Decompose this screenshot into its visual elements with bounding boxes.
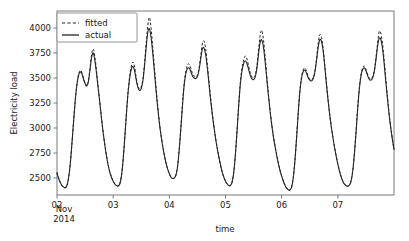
x-axis-sublabel-year: 2014: [53, 214, 75, 224]
x-axis-tick-label: 07: [332, 200, 343, 210]
y-axis-tick-label: 2750: [29, 148, 51, 158]
x-axis-tick-label: 04: [164, 200, 175, 210]
y-axis-tick-label: 3000: [29, 123, 51, 133]
x-axis-tick-label: 05: [220, 200, 231, 210]
legend-label-fitted: fitted: [85, 18, 108, 28]
x-axis-sublabel-month: Nov: [56, 204, 73, 214]
legend-label-actual: actual: [85, 30, 111, 40]
x-axis-tick-label: 06: [276, 200, 287, 210]
chart-figure: 2500275030003250350037504000 02030405060…: [0, 0, 409, 241]
y-axis-tick-label: 3500: [29, 73, 51, 83]
y-axis-tick-label: 3750: [29, 48, 51, 58]
x-axis-tick-label: 03: [108, 200, 119, 210]
x-axis-title: time: [215, 224, 234, 234]
y-axis-tick-label: 4000: [29, 23, 51, 33]
y-axis-tick-label: 2500: [29, 173, 51, 183]
chart-legend[interactable]: fitted actual: [57, 13, 137, 42]
electricity-load-line-chart: 2500275030003250350037504000 02030405060…: [0, 0, 409, 241]
y-axis-title: Electricity load: [9, 71, 19, 134]
y-axis-tick-label: 3250: [29, 98, 51, 108]
